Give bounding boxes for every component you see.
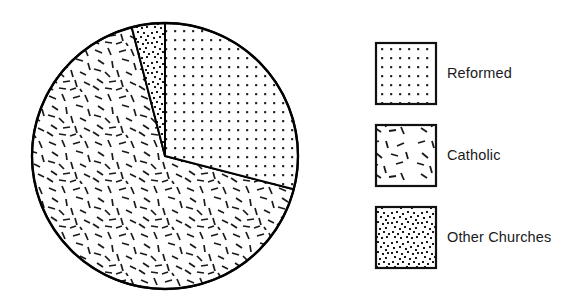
legend-swatch-reformed[interactable] <box>376 43 436 104</box>
pie-group <box>32 23 298 289</box>
legend <box>376 43 436 268</box>
legend-label-catholic: Catholic <box>447 148 501 163</box>
legend-swatch-other-churches[interactable] <box>376 207 436 268</box>
legend-label-reformed: Reformed <box>447 66 512 81</box>
legend-swatch-catholic[interactable] <box>376 125 436 186</box>
legend-label-other-churches: Other Churches <box>447 230 551 245</box>
